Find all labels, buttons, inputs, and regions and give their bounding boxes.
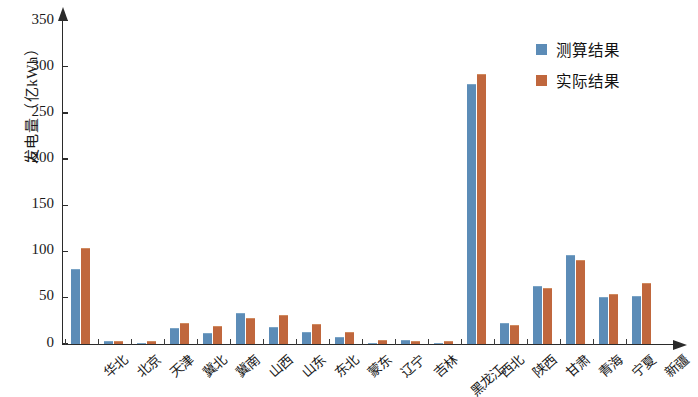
legend-label-actual: 实际结果	[556, 69, 620, 91]
bar-group	[235, 21, 257, 344]
bar-calculated	[137, 343, 146, 344]
bar-group	[301, 21, 323, 344]
bar-calculated	[104, 341, 113, 343]
bar-calculated	[368, 343, 377, 344]
legend-item-calculated: 测算结果	[536, 38, 620, 60]
bar-calculated	[434, 343, 443, 344]
bar-calculated	[203, 333, 212, 343]
bar-calculated	[269, 327, 278, 344]
bar-group	[499, 21, 521, 344]
bar-calculated	[566, 255, 575, 344]
y-axis-tick-label: 0	[12, 334, 62, 351]
bar-group	[466, 21, 488, 344]
bar-group	[631, 21, 653, 344]
bar-actual	[444, 341, 453, 343]
y-axis-tick-label: 250	[12, 103, 62, 120]
x-axis-tick-label: 山西	[264, 349, 297, 381]
x-axis-tick-label: 辽宁	[396, 349, 429, 381]
legend-swatch-icon-actual	[536, 75, 547, 86]
x-axis-tick-label: 吉林	[429, 349, 462, 381]
y-axis-tick-label: 100	[12, 241, 62, 258]
y-axis-tick-label: 150	[12, 195, 62, 212]
bar-group	[202, 21, 224, 344]
bar-group	[103, 21, 125, 344]
bar-actual	[576, 260, 585, 343]
bar-calculated	[236, 313, 245, 344]
bar-group	[367, 21, 389, 344]
bar-actual	[642, 283, 651, 344]
bar-calculated	[401, 340, 410, 344]
bar-actual	[180, 323, 189, 343]
bar-calculated	[467, 84, 476, 343]
x-axis-tick-label: 天津	[165, 349, 198, 381]
legend-swatch-icon-calculated	[536, 44, 547, 55]
bar-calculated	[170, 328, 179, 344]
bar-actual	[411, 341, 420, 344]
x-axis-line	[62, 344, 674, 345]
x-axis-tick-label: 蒙东	[363, 349, 396, 381]
bar-actual	[114, 341, 123, 343]
bar-actual	[147, 341, 156, 344]
bar-calculated	[302, 332, 311, 344]
bar-calculated	[335, 337, 344, 344]
bar-chart: 发电量（亿kWh） 050100150200250300350 华北北京天津冀北…	[0, 0, 698, 397]
bar-actual	[279, 315, 288, 344]
bar-actual	[312, 324, 321, 343]
bar-group	[334, 21, 356, 344]
x-axis-tick-label: 陕西	[528, 349, 561, 381]
bar-group	[136, 21, 158, 344]
bar-group	[70, 21, 92, 344]
bar-calculated	[71, 269, 80, 344]
legend-item-actual: 实际结果	[536, 69, 620, 91]
x-axis-tick-label: 冀北	[198, 349, 231, 381]
bar-actual	[543, 288, 552, 343]
x-axis-tick-label: 北京	[132, 349, 165, 381]
bar-actual	[510, 325, 519, 344]
x-axis-tick-label: 新疆	[660, 349, 693, 381]
bar-actual	[246, 318, 255, 344]
bar-group	[268, 21, 290, 344]
bar-calculated	[632, 296, 641, 344]
bar-group	[400, 21, 422, 344]
bar-actual	[81, 248, 90, 343]
x-axis-arrow-icon	[673, 340, 687, 350]
x-axis-tick-labels: 华北北京天津冀北冀南山西山东东北蒙东辽宁吉林黑龙江西北陕西甘肃青海宁夏新疆	[62, 349, 674, 397]
bar-calculated	[533, 286, 542, 343]
bar-actual	[477, 74, 486, 344]
x-axis-tick-label: 山东	[297, 349, 330, 381]
bar-actual	[345, 332, 354, 343]
x-axis-tick-label: 冀南	[231, 349, 264, 381]
bar-actual	[378, 340, 387, 344]
bar-calculated	[599, 297, 608, 343]
x-axis-tick-label: 东北	[330, 349, 363, 381]
y-axis-tick-label: 200	[12, 149, 62, 166]
y-axis-tick-label: 350	[12, 11, 62, 28]
y-axis-tick-label: 300	[12, 57, 62, 74]
bar-group	[169, 21, 191, 344]
x-axis-tick-label: 青海	[594, 349, 627, 381]
legend-label-calculated: 测算结果	[556, 38, 620, 60]
x-axis-tick-label: 甘肃	[561, 349, 594, 381]
bar-actual	[213, 326, 222, 344]
bar-calculated	[500, 323, 509, 343]
bar-actual	[609, 294, 618, 344]
legend: 测算结果 实际结果	[536, 38, 620, 100]
y-axis-tick-label: 50	[12, 287, 62, 304]
x-axis-tick-label: 华北	[99, 349, 132, 381]
x-axis-tick-label: 宁夏	[627, 349, 660, 381]
bar-group	[433, 21, 455, 344]
